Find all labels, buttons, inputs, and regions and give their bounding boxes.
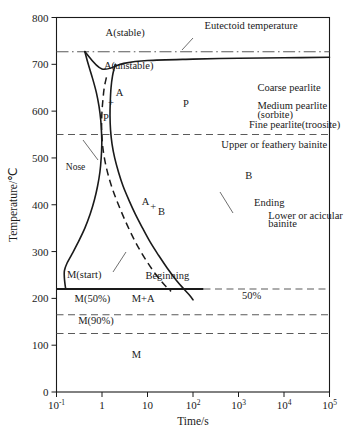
annotation-ending: Ending [254, 197, 285, 208]
x-tick-label: 10 [142, 399, 154, 411]
y-tick-label: 200 [32, 292, 49, 304]
leader-beginning [113, 252, 126, 272]
annotation-a-stable: A(stable) [106, 27, 146, 39]
curve-transformation-end [110, 64, 193, 299]
y-axis-tick-labels: 0100200300400500600700800 [32, 12, 49, 399]
ttt-diagram: 0100200300400500600700800 10-11101021031… [0, 0, 353, 439]
annotation-beginning: Beginning [145, 270, 189, 281]
annotation-upper-bainite: Upper or feathery bainite [221, 139, 327, 150]
x-tick-label: 10-1 [48, 398, 65, 411]
annotation-m-start-label: M(start) [67, 269, 102, 281]
leader-ending [220, 192, 233, 213]
y-tick-label: 700 [32, 58, 49, 70]
annotation-fifty-percent: 50% [242, 290, 262, 301]
y-axis-title: Temperature/℃ [7, 168, 20, 242]
annotation-m-region: M [132, 349, 142, 360]
annotation-fine-pearlite: Fine pearlite(troosite) [249, 119, 341, 131]
leader-eutectoid [182, 38, 193, 50]
x-tick-label: 104 [277, 398, 292, 411]
x-tick-label: 102 [186, 398, 201, 411]
annotation-a-plus-p-p: P [103, 112, 109, 123]
y-axis-ticks [52, 18, 57, 393]
annotation-nose: Nose [66, 162, 86, 172]
annotation-lower-bainite-line2: bainite [268, 218, 297, 229]
y-tick-label: 400 [32, 199, 49, 211]
y-tick-label: 300 [32, 246, 49, 258]
ttt-diagram-svg: 0100200300400500600700800 10-11101021031… [0, 0, 353, 439]
y-tick-label: 600 [32, 105, 49, 117]
annotation-coarse-pearlite: Coarse pearlite [257, 82, 321, 93]
annotation-p-region: P [183, 98, 189, 109]
annotation-b-region: B [245, 170, 252, 181]
x-tick-label: 1 [99, 399, 105, 411]
y-tick-label: 500 [32, 152, 49, 164]
annotation-m-fifty-label: M(50%) [75, 293, 111, 305]
annotation-a-plus-b-a: A [142, 196, 150, 207]
annotation-m-ninety-label: M(90%) [78, 315, 114, 327]
x-tick-label: 105 [322, 398, 337, 411]
leader-lines [83, 38, 233, 272]
chart-annotations: A(stable)Eutectoid temperatureA(unstable… [66, 20, 344, 360]
plot-frame [57, 18, 330, 393]
x-axis-ticks [57, 392, 330, 397]
annotation-a-plus-b-plus: + [150, 201, 156, 212]
annotation-a-plus-p-a: A [116, 87, 124, 98]
y-tick-label: 800 [32, 12, 49, 24]
x-tick-label: 103 [231, 398, 246, 411]
x-axis-title: Time/s [177, 415, 209, 427]
annotation-eutectoid-temperature: Eutectoid temperature [205, 20, 298, 31]
annotation-m-plus-a: M+A [132, 293, 155, 304]
annotation-a-plus-b-b: B [158, 206, 165, 217]
x-axis-tick-labels: 10-1110102103104105 [48, 398, 337, 411]
annotation-a-plus-p-plus: + [108, 97, 114, 108]
annotation-a-unstable: A(unstable) [104, 60, 154, 72]
leader-nose [83, 140, 98, 160]
y-tick-label: 0 [43, 386, 49, 398]
y-tick-label: 100 [32, 339, 49, 351]
